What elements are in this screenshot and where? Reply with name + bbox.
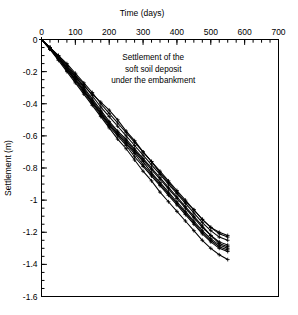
x-tick-label: 500 [204,27,218,37]
y-tick-label: -1 [30,195,38,205]
y-tick-label: -0.4 [23,99,38,109]
chart-annotation: Settlement of thesoft soil depositunder … [111,53,196,85]
x-tick-label: 0 [39,27,44,37]
x-tick-label: 700 [271,27,285,37]
x-tick-label: 400 [170,27,184,37]
y-tick-label: -1.2 [23,227,38,237]
y-tick-label: -1.6 [23,292,38,302]
annotation-line: under the embankment [111,76,196,85]
y-tick-label: 0 [33,35,38,45]
x-tick-label: 100 [68,27,82,37]
annotation-line: soft soil deposit [125,65,182,74]
x-tick-label: 200 [102,27,116,37]
y-tick-label: -0.6 [23,131,38,141]
chart-canvas: 01002003004005006007000-0.2-0.4-0.6-0.8-… [0,0,298,315]
annotation-line: Settlement of the [122,53,184,62]
y-axis-title: Settlement (m) [3,140,13,196]
x-tick-label: 600 [238,27,252,37]
settlement-chart-figure: 01002003004005006007000-0.2-0.4-0.6-0.8-… [0,0,298,315]
y-tick-label: -0.2 [23,67,38,77]
y-tick-label: -0.8 [23,163,38,173]
x-axis-title: Time (days) [120,8,165,18]
x-tick-label: 300 [136,27,150,37]
y-tick-label: -1.4 [23,259,38,269]
